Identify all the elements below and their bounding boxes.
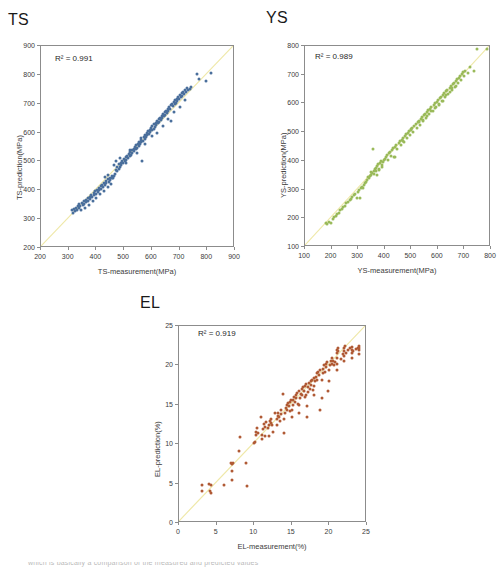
y-tick	[175, 483, 178, 484]
y-tick	[37, 189, 40, 190]
data-point	[83, 206, 86, 209]
data-point	[422, 118, 425, 121]
data-point	[335, 369, 338, 372]
data-point	[299, 397, 302, 400]
x-tick-label: 20	[324, 528, 332, 535]
data-point	[156, 131, 159, 134]
data-point	[200, 489, 203, 492]
x-tick-label: 25	[362, 528, 370, 535]
x-tick-label: 200	[325, 252, 337, 259]
y-tick	[37, 218, 40, 219]
data-point	[118, 156, 121, 159]
data-point	[339, 358, 342, 361]
data-point	[167, 117, 170, 120]
el-plot-area	[178, 325, 366, 522]
y-tick-label: 200	[6, 244, 35, 251]
y-tick	[301, 217, 304, 218]
y-tick-label: 400	[6, 186, 35, 193]
x-tick-label: 500	[117, 253, 129, 260]
y-tick-label: 100	[270, 243, 299, 250]
y-tick-label: 500	[270, 128, 299, 135]
y-tick	[37, 132, 40, 133]
data-point	[358, 353, 361, 356]
x-tick-label: 600	[145, 253, 157, 260]
x-tick-label: 400	[378, 252, 390, 259]
data-point	[253, 440, 256, 443]
y-tick-label: 800	[270, 42, 299, 49]
x-tick-label: 900	[228, 253, 240, 260]
data-point	[344, 351, 347, 354]
data-point	[320, 397, 323, 400]
y-tick	[301, 246, 304, 247]
data-point	[415, 127, 418, 130]
data-point	[244, 462, 247, 465]
data-point	[476, 48, 479, 51]
data-point	[468, 66, 471, 69]
data-point	[448, 90, 451, 93]
x-tick	[253, 522, 254, 525]
y-tick	[301, 45, 304, 46]
x-tick-label: 500	[404, 252, 416, 259]
data-point	[271, 423, 274, 426]
data-point	[230, 469, 233, 472]
x-tick-label: 15	[287, 528, 295, 535]
y-tick-label: 600	[270, 99, 299, 106]
data-point	[306, 391, 309, 394]
x-tick-label: 600	[431, 252, 443, 259]
data-point	[430, 110, 433, 113]
y-tick-label: 300	[270, 185, 299, 192]
data-point	[311, 388, 314, 391]
data-point	[343, 359, 346, 362]
data-point	[295, 397, 298, 400]
y-tick-label: 900	[6, 42, 35, 49]
x-tick-label: 5	[214, 528, 218, 535]
data-point	[260, 438, 263, 441]
data-point	[270, 417, 273, 420]
x-tick	[68, 247, 69, 250]
data-point	[399, 144, 402, 147]
data-point	[350, 356, 353, 359]
data-point	[290, 408, 293, 411]
data-point	[209, 72, 212, 75]
data-point	[319, 409, 322, 412]
data-point	[245, 484, 248, 487]
x-tick-label: 0	[176, 528, 180, 535]
data-point	[305, 416, 308, 419]
y-tick-label: 700	[6, 99, 35, 106]
x-tick	[216, 522, 217, 525]
data-point	[361, 187, 364, 190]
data-point	[278, 416, 281, 419]
x-tick-label: 400	[90, 253, 102, 260]
y-tick-label: 500	[6, 157, 35, 164]
data-point	[102, 189, 105, 192]
data-point	[231, 479, 234, 482]
y-tick	[301, 131, 304, 132]
data-point	[91, 200, 94, 203]
data-point	[110, 182, 113, 185]
x-tick-label: 700	[173, 253, 185, 260]
data-point	[201, 484, 204, 487]
y-tick	[37, 103, 40, 104]
x-tick-label: 700	[458, 252, 470, 259]
data-point	[375, 173, 378, 176]
data-point	[409, 134, 412, 137]
data-point	[372, 147, 375, 150]
x-tick	[328, 522, 329, 525]
data-point	[204, 79, 207, 82]
data-point	[472, 70, 475, 73]
data-point	[106, 186, 109, 189]
data-point	[143, 143, 146, 146]
data-point	[451, 87, 454, 90]
data-point	[272, 430, 275, 433]
x-tick	[206, 247, 207, 250]
data-point	[426, 115, 429, 118]
data-point	[95, 196, 98, 199]
x-tick	[234, 247, 235, 250]
y-tick-label: 700	[270, 70, 299, 77]
x-tick-label: 10	[249, 528, 257, 535]
data-point	[335, 356, 338, 359]
x-tick-label: 300	[351, 252, 363, 259]
data-point	[358, 197, 361, 200]
ts-chart-title: TS	[8, 12, 29, 28]
y-tick	[37, 45, 40, 46]
